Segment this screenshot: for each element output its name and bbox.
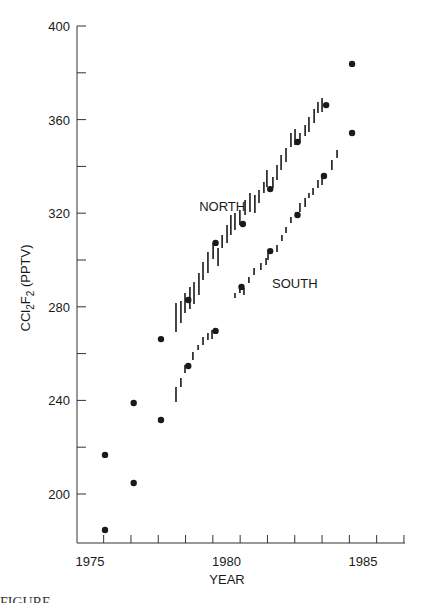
south-annual-mean-dot [267,248,273,254]
north-annual-mean-dot [212,240,218,246]
north-annual-mean-dot [185,297,191,303]
y-tick-label: 320 [48,206,70,221]
x-axis-title: YEAR [209,572,244,587]
north-annual-mean-dot [349,61,355,67]
north-annual-mean-dot [102,452,108,458]
y-tick-label: 360 [48,113,70,128]
south-annual-mean-dot [238,284,244,290]
south-annual-mean-dot [158,417,164,423]
y-tick-label: 400 [48,19,70,34]
caption-text: FIGURE [0,596,422,603]
y-axis-title-main: CCl [18,310,33,332]
north-series-label: NORTH [199,199,245,214]
north-annual-mean-dot [130,400,136,406]
south-annual-mean-dot [102,527,108,533]
south-annual-mean-dot [294,212,300,218]
north-annual-mean-dot [267,186,273,192]
south-series-label: SOUTH [272,276,318,291]
north-annual-mean-dot [294,139,300,145]
y-tick-label: 280 [48,300,70,315]
north-annual-mean-dot [158,336,164,342]
north-annual-mean-dot [240,221,246,227]
south-annual-mean-dot [185,363,191,369]
annual-mean-dots [102,61,355,534]
north-annual-mean-dot [323,102,329,108]
monthly-range-bars [176,98,337,402]
figure-caption-clipped: FIGURE [0,594,422,603]
y-axis-ticks: 200240280320360400 [48,19,86,502]
south-annual-mean-dot [321,173,327,179]
south-annual-mean-dot [212,328,218,334]
south-annual-mean-dot [349,130,355,136]
y-tick-label: 240 [48,393,70,408]
chart: 200240280320360400 197519801985 NORTHSOU… [0,0,422,603]
x-tick-label: 1985 [349,554,378,569]
y-tick-label: 200 [48,487,70,502]
south-annual-mean-dot [130,480,136,486]
x-tick-label: 1975 [76,554,105,569]
y-axis-title: CCl2F2 (PPTV) [18,245,36,332]
x-axis-ticks: 197519801985 [76,535,404,569]
x-tick-label: 1980 [212,554,241,569]
y-axis-title-mid: F [18,296,33,304]
y-axis-title-unit: (PPTV) [18,245,33,291]
